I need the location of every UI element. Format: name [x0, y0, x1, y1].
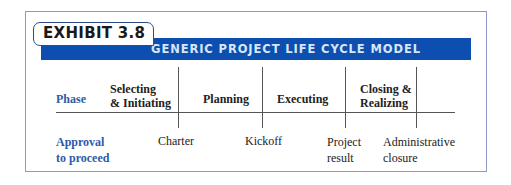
- phase-divider-3: [345, 67, 346, 128]
- milestone-administrative-closure: Administrative closure: [383, 134, 455, 166]
- phase-closing-realizing: Closing & Realizing: [360, 82, 412, 110]
- phase-line-1: Selecting: [110, 82, 171, 96]
- phase-line-2: Realizing: [360, 96, 412, 110]
- approval-row-label: Approval to proceed: [56, 134, 109, 166]
- timeline-axis: [56, 112, 455, 113]
- phase-row-label: Phase: [56, 92, 86, 106]
- milestone-line-1: Project: [327, 134, 361, 150]
- approval-line-2: to proceed: [56, 150, 109, 166]
- milestone-project-result: Project result: [327, 134, 361, 166]
- milestone-line-2: closure: [383, 150, 455, 166]
- phase-divider-4: [416, 67, 417, 128]
- phase-divider-2: [262, 67, 263, 128]
- phase-executing: Executing: [277, 92, 328, 106]
- milestone-line-1: Administrative: [383, 134, 455, 150]
- exhibit-label: EXHIBIT 3.8: [33, 22, 154, 46]
- phase-planning: Planning: [203, 92, 249, 106]
- phase-line-1: Executing: [277, 92, 328, 106]
- approval-line-1: Approval: [56, 134, 109, 150]
- milestone-line-2: result: [327, 150, 361, 166]
- phase-line-1: Planning: [203, 92, 249, 106]
- milestone-line-1: Charter: [158, 134, 194, 148]
- milestone-line-1: Kickoff: [245, 134, 282, 148]
- milestone-charter: Charter: [158, 134, 194, 148]
- phase-line-1: Closing &: [360, 82, 412, 96]
- phase-divider-1: [178, 67, 179, 128]
- phase-line-2: & Initiating: [110, 96, 171, 110]
- phase-selecting-initiating: Selecting & Initiating: [110, 82, 171, 110]
- milestone-kickoff: Kickoff: [245, 134, 282, 148]
